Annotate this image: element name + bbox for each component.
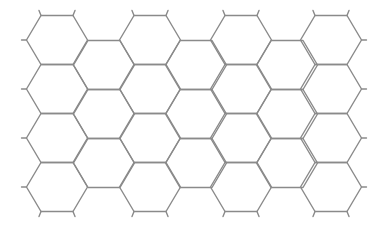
hexagon-cell	[120, 65, 181, 114]
edge-stub	[257, 11, 259, 16]
hexagon-cell	[166, 139, 227, 188]
edge-stub	[132, 11, 134, 16]
honeycomb-pattern	[0, 0, 385, 234]
hexagon-grid-diagram	[0, 0, 385, 234]
hexagon-cell	[120, 114, 181, 163]
edge-stub	[347, 11, 349, 16]
hexagon-cell	[301, 16, 362, 65]
hexagon-cell	[120, 163, 181, 212]
edge-stub	[132, 212, 134, 217]
hexagon-cell	[301, 163, 362, 212]
edge-stub	[257, 212, 259, 217]
edge-stub	[313, 11, 315, 16]
hexagon-cell	[120, 16, 181, 65]
hexagon-cell	[257, 139, 318, 188]
edge-stub	[39, 11, 41, 16]
hexagon-cell	[301, 65, 362, 114]
edge-stub	[166, 11, 168, 16]
hexagon-cell	[301, 114, 362, 163]
hexagon-cell	[166, 90, 227, 139]
hexagon-cell	[257, 41, 318, 90]
edge-stub	[39, 212, 41, 217]
hexagon-cell	[166, 41, 227, 90]
hexagon-cell	[211, 65, 272, 114]
edge-stub	[223, 212, 225, 217]
edge-stub	[73, 11, 75, 16]
edge-stub	[73, 212, 75, 217]
hexagon-cell	[257, 90, 318, 139]
hexagon-cell	[211, 114, 272, 163]
edge-stub	[313, 212, 315, 217]
hexagon-cell	[211, 16, 272, 65]
edge-stub	[347, 212, 349, 217]
hexagon-cell	[211, 163, 272, 212]
edge-stub	[166, 212, 168, 217]
edge-stub	[223, 11, 225, 16]
